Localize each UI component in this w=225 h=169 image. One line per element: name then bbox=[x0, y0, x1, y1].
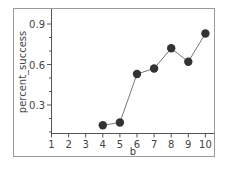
y-tick-label: 0.9 bbox=[29, 19, 45, 30]
x-tick-label: 7 bbox=[151, 139, 157, 150]
y-tick-label: 0.3 bbox=[29, 100, 45, 111]
y-axis-label: percent_success bbox=[17, 31, 29, 113]
x-axis-label: b bbox=[130, 146, 136, 157]
outer-frame bbox=[14, 9, 215, 157]
x-tick-label: 4 bbox=[100, 139, 106, 150]
data-point bbox=[167, 44, 175, 52]
line-chart: 0.30.60.9 12345678910 percent_success b bbox=[0, 0, 225, 169]
data-point bbox=[150, 64, 158, 72]
x-tick-label: 9 bbox=[185, 139, 191, 150]
x-tick-label: 10 bbox=[199, 139, 212, 150]
y-ticks: 0.30.60.9 bbox=[29, 19, 51, 132]
data-point bbox=[116, 118, 124, 126]
series-line bbox=[103, 33, 206, 125]
x-tick-label: 5 bbox=[117, 139, 123, 150]
data-series bbox=[99, 29, 210, 129]
data-point bbox=[133, 70, 141, 78]
x-tick-label: 1 bbox=[48, 139, 54, 150]
data-point bbox=[99, 121, 107, 129]
data-point bbox=[201, 29, 209, 37]
x-tick-label: 3 bbox=[83, 139, 89, 150]
y-tick-label: 0.6 bbox=[29, 60, 45, 71]
x-tick-label: 8 bbox=[168, 139, 174, 150]
x-tick-label: 2 bbox=[65, 139, 71, 150]
data-point bbox=[184, 58, 192, 66]
